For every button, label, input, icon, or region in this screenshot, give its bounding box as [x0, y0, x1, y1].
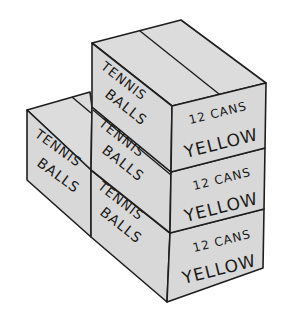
tennis-ball-boxes-illustration: TENNIS BALLS TENNIS BALLS 12 CANS YELLOW…: [0, 0, 281, 320]
left-box: TENNIS BALLS: [27, 92, 92, 237]
boxes-drawing: TENNIS BALLS TENNIS BALLS 12 CANS YELLOW…: [0, 0, 281, 320]
